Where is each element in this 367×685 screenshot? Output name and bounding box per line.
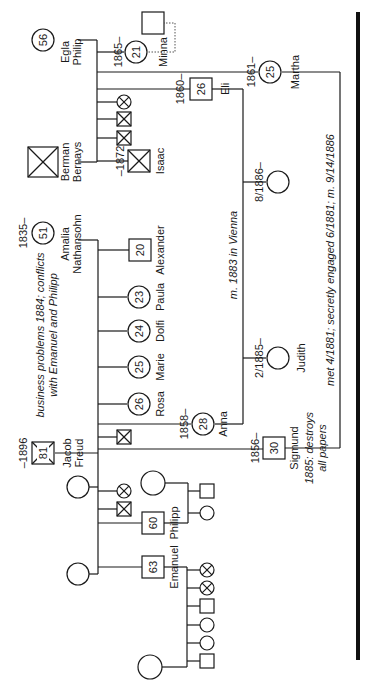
age-label: 24 [133,325,145,337]
person-dolfi: 24 [128,320,150,342]
date-amalia: 1835– [17,217,29,248]
person-jacob_child_b [117,502,131,516]
label-philipp: Philipp [168,506,180,539]
label-berman: BermanBernays [59,141,83,182]
age-label: 81 [37,447,49,459]
label-anna: Anna [217,410,229,437]
label-paula: Paula [154,282,166,311]
person-symbols: 562125265120232425262881306063 [28,12,289,679]
age-label: 23 [133,291,145,303]
female-circle-icon [200,506,214,520]
label-alexander: Alexander [154,225,166,275]
date-isaac: –1872 [114,146,126,177]
date-judith: 2/1885– [253,337,265,378]
person-jacob: 81 [32,442,54,464]
label-jacob: JacobFreud [61,438,85,467]
person-martha: 25 [259,61,281,83]
person-emanuel_child_2 [200,581,214,595]
person-philipp_child_2 [200,506,214,520]
date-minna: 1865– [112,36,124,67]
person-jacob_child_a [117,484,131,498]
person-philipp_child_1 [200,484,214,498]
person-jacob_wife_1 [67,476,89,498]
date-jacob: –1896 [17,438,29,469]
person-philipp_wife [141,471,165,495]
date-anna: 1858– [178,408,190,439]
person-bernays_child_2 [117,112,131,126]
female-circle-icon [141,471,165,495]
male-square-icon [142,12,164,34]
male-square-icon [200,484,214,498]
person-emanuel_child_3 [200,599,214,613]
labels: EglaPhilip BermanBernays Minna Martha El… [17,36,336,589]
label-judith: Judith [295,343,307,372]
person-philipp: 60 [142,512,164,534]
label-emanuel: Emanuel [168,545,180,588]
female-circle-icon [67,476,89,498]
age-label: 60 [147,517,159,529]
female-circle-icon [138,655,162,679]
label-rosa: Rosa [154,390,166,417]
age-label: 51 [37,227,49,239]
label-martha: Martha [289,54,301,89]
person-bernays_child_1 [117,95,131,109]
label-marie: Marie [154,353,166,381]
person-bernays_child_3 [117,131,131,145]
note-jacob: business problems 1884; conflictswith Em… [34,252,59,418]
age-label: 21 [130,46,142,58]
age-label: 25 [133,361,145,373]
person-eli: 26 [190,78,212,100]
person-paula: 23 [128,286,150,308]
age-label: 63 [147,561,159,573]
label-egla: EglaPhilip [59,39,83,66]
age-label: 26 [195,83,207,95]
person-anna: 28 [192,413,214,435]
person-eli_child [267,171,289,193]
age-label: 30 [268,442,280,454]
date-eli-child: 8/1886– [253,161,265,202]
person-isaac [128,150,150,172]
person-alexander: 20 [129,239,151,261]
person-emanuel_child_4 [200,618,214,632]
female-circle-icon [200,636,214,650]
person-judith [267,347,289,369]
date-sigmund: 1856– [249,432,261,463]
person-egla: 56 [32,29,54,51]
note-eli-anna-marriage: m. 1883 in Vienna [227,211,239,299]
person-berman [28,147,58,177]
female-circle-icon [200,618,214,632]
person-freud_child_dead [117,430,131,444]
label-eli: Eli [219,83,231,95]
person-jacob_wife_2 [67,563,89,585]
male-square-icon [200,654,214,668]
person-emanuel: 63 [142,556,164,578]
person-emanuel_child_5 [200,636,214,650]
age-label: 20 [134,244,146,256]
female-circle-icon [267,347,289,369]
label-dolfi: Dolfi [154,320,166,342]
label-minna: Minna [157,36,169,67]
date-eli: 1860– [174,73,186,104]
date-martha: 1861– [245,56,257,87]
age-label: 26 [133,398,145,410]
person-sigmund: 30 [263,437,285,459]
label-amalia: AmaliaNathansohn [59,214,83,273]
person-minna: 21 [125,41,147,63]
age-label: 25 [264,66,276,78]
genogram: 562125265120232425262881306063 EglaPhili… [0,0,367,685]
person-minna_partner [142,12,164,34]
person-emanuel_child_6 [200,654,214,668]
person-marie: 25 [128,356,150,378]
female-circle-icon [67,563,89,585]
age-label: 56 [37,34,49,46]
female-circle-icon [267,171,289,193]
note-sigmund-martha: met 4/1881; secretly engaged 6/1881; m. … [324,133,336,386]
person-emanuel_wife [138,655,162,679]
age-label: 28 [197,418,209,430]
person-emanuel_child_1 [200,563,214,577]
label-sigmund: Sigmund [288,426,300,469]
note-sigmund: 1885: destroysall papers [303,411,328,484]
person-amalia: 51 [32,222,54,244]
male-square-icon [200,599,214,613]
label-isaac: Isaac [154,147,166,174]
